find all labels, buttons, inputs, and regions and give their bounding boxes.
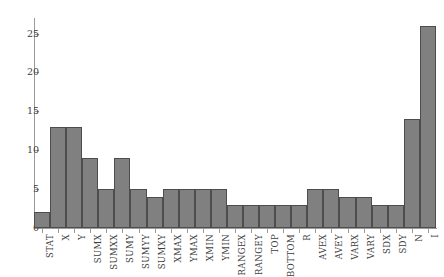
bar-vary — [356, 197, 372, 228]
x-tick-mark — [58, 229, 59, 233]
bar-rangey — [243, 205, 259, 228]
x-label-slot: XMAX — [163, 234, 179, 277]
x-tick-slot — [356, 229, 372, 233]
bar-slot — [179, 18, 195, 228]
bar-slot — [66, 18, 82, 228]
x-tick-mark — [219, 229, 220, 233]
x-tick-slot — [339, 229, 355, 233]
x-tick-slot — [372, 229, 388, 233]
x-tick-mark — [235, 229, 236, 233]
bar-slot — [291, 18, 307, 228]
x-tick-slot — [179, 229, 195, 233]
x-label-slot: SUMXX — [98, 234, 114, 277]
x-tick-label-i: I — [431, 234, 439, 238]
x-tick-mark — [331, 229, 332, 233]
bar-top — [259, 205, 275, 228]
x-tick-mark — [299, 229, 300, 233]
x-tick-mark — [90, 229, 91, 233]
x-tick-mark — [267, 229, 268, 233]
x-tick-slot — [114, 229, 130, 233]
x-tick-slot — [227, 229, 243, 233]
x-label-slot: SUMY — [114, 234, 130, 277]
bar-avex — [307, 189, 323, 228]
bar-sumx — [82, 158, 98, 228]
x-label-slot: YMAX — [179, 234, 195, 277]
bar-slot — [323, 18, 339, 228]
x-tick-slot — [211, 229, 227, 233]
x-tick-slot — [307, 229, 323, 233]
x-label-slot: TOP — [259, 234, 275, 277]
bar-slot — [372, 18, 388, 228]
x-tick-slot — [275, 229, 291, 233]
bar-slot — [339, 18, 355, 228]
bar-slot — [420, 18, 436, 228]
x-tick-slot — [163, 229, 179, 233]
bar-slot — [82, 18, 98, 228]
x-tick-mark — [139, 229, 140, 233]
bar-slot — [307, 18, 323, 228]
bar-ymax — [179, 189, 195, 228]
bar-series — [34, 18, 436, 228]
x-label-slot: VARY — [356, 234, 372, 277]
x-label-slot: XMIN — [195, 234, 211, 277]
bar-sdy — [388, 205, 404, 228]
x-axis-labels: STATXYSUMXSUMXXSUMYSUMYYSUMXYXMAXYMAXXMI… — [34, 234, 436, 277]
bar-stat — [34, 212, 50, 228]
x-label-slot: AVEX — [307, 234, 323, 277]
bar-ymin — [211, 189, 227, 228]
x-label-slot: RANGEY — [243, 234, 259, 277]
x-label-slot: SUMX — [82, 234, 98, 277]
x-tick-slot — [34, 229, 50, 233]
bar-x — [50, 127, 66, 228]
x-tick-slot — [195, 229, 211, 233]
bar-slot — [404, 18, 420, 228]
bar-slot — [195, 18, 211, 228]
x-tick-slot — [98, 229, 114, 233]
bar-sumyy — [130, 189, 146, 228]
bar-slot — [34, 18, 50, 228]
x-tick-slot — [388, 229, 404, 233]
x-tick-mark — [412, 229, 413, 233]
x-tick-slot — [259, 229, 275, 233]
bar-slot — [50, 18, 66, 228]
bar-slot — [388, 18, 404, 228]
x-label-slot: SUMXY — [147, 234, 163, 277]
x-tick-mark — [171, 229, 172, 233]
x-tick-mark — [187, 229, 188, 233]
bar-varx — [339, 197, 355, 228]
bar-r — [291, 205, 307, 228]
x-tick-slot — [323, 229, 339, 233]
bar-slot — [211, 18, 227, 228]
x-tick-mark — [74, 229, 75, 233]
bar-bottom — [275, 205, 291, 228]
bar-slot — [163, 18, 179, 228]
bar-xmin — [195, 189, 211, 228]
bar-avey — [323, 189, 339, 228]
x-label-slot: R — [291, 234, 307, 277]
x-label-slot: VARX — [339, 234, 355, 277]
x-tick-mark — [396, 229, 397, 233]
x-tick-mark — [380, 229, 381, 233]
x-label-slot: STAT — [34, 234, 50, 277]
x-label-slot: Y — [66, 234, 82, 277]
x-tick-slot — [291, 229, 307, 233]
bar-slot — [114, 18, 130, 228]
x-tick-slot — [82, 229, 98, 233]
bar-slot — [275, 18, 291, 228]
x-tick-slot — [66, 229, 82, 233]
x-tick-slot — [420, 229, 436, 233]
bar-sdx — [372, 205, 388, 228]
x-tick-mark — [155, 229, 156, 233]
bar-i — [420, 26, 436, 228]
bar-rangex — [227, 205, 243, 228]
x-tick-mark — [283, 229, 284, 233]
x-tick-mark — [203, 229, 204, 233]
bar-xmax — [163, 189, 179, 228]
x-label-slot: BOTTOM — [275, 234, 291, 277]
bar-slot — [356, 18, 372, 228]
x-tick-mark — [122, 229, 123, 233]
x-axis-ticks — [34, 229, 436, 233]
bar-slot — [130, 18, 146, 228]
bar-slot — [259, 18, 275, 228]
x-tick-slot — [147, 229, 163, 233]
